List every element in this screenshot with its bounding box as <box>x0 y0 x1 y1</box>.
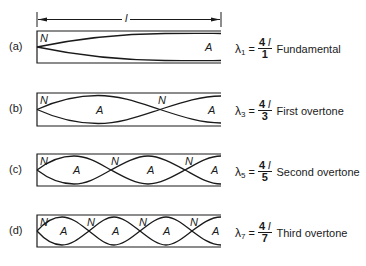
node-label: N <box>185 155 193 167</box>
row-tag-a: (a) <box>9 40 22 52</box>
fraction: 4 l3 <box>258 99 272 122</box>
formula-a: λ1= 4 l1 Fundamental <box>235 37 341 60</box>
formula-b: λ3= 4 l3 First overtone <box>235 99 344 122</box>
equals-sign: = <box>248 105 254 117</box>
numerator: 4 <box>259 159 265 171</box>
equals-sign: = <box>248 227 254 239</box>
row-tag-b: (b) <box>9 102 22 114</box>
antinode-label: A <box>163 225 170 237</box>
antinode-label: A <box>96 104 103 116</box>
numerator: 4 <box>259 98 265 110</box>
node-label: N <box>87 216 95 228</box>
node-label: N <box>40 216 48 228</box>
equals-sign: = <box>248 43 254 55</box>
node-label: N <box>139 216 147 228</box>
equals-sign: = <box>248 166 254 178</box>
antinode-label: A <box>112 225 119 237</box>
length-label: l <box>122 12 130 24</box>
mode-name: Fundamental <box>277 43 341 55</box>
antinode-label: A <box>60 225 67 237</box>
formula-d: λ7= 4 l7 Third overtone <box>235 221 347 244</box>
denominator: 7 <box>262 233 268 244</box>
mode-name: First overtone <box>277 105 344 117</box>
tube-b <box>37 93 221 126</box>
node-label: N <box>158 94 166 106</box>
mode-name: Second overtone <box>277 166 360 178</box>
formula-c: λ5= 4 l5 Second overtone <box>235 160 360 183</box>
numerator: 4 <box>259 36 265 48</box>
row-tag-d: (d) <box>9 224 22 236</box>
antinode-label: A <box>212 225 219 237</box>
tube-c <box>37 154 221 186</box>
node-label: N <box>40 155 48 167</box>
antinode-label: A <box>208 104 215 116</box>
mode-name: Third overtone <box>277 227 348 239</box>
node-label: N <box>111 155 119 167</box>
antinode-label: A <box>147 164 154 176</box>
node-label: N <box>40 32 48 44</box>
antinode-label: A <box>205 41 212 53</box>
fraction: 4 l7 <box>258 221 272 244</box>
denominator: 3 <box>262 111 268 122</box>
numerator: 4 <box>259 220 265 232</box>
denominator: 5 <box>262 172 268 183</box>
lambda-subscript: 5 <box>241 171 245 180</box>
antinode-label: A <box>73 164 80 176</box>
numerator-var: l <box>268 36 270 48</box>
antinode-label: A <box>211 164 218 176</box>
lambda-subscript: 3 <box>241 110 245 119</box>
numerator-var: l <box>268 159 270 171</box>
fraction: 4 l1 <box>258 37 272 60</box>
node-label: N <box>40 94 48 106</box>
numerator-var: l <box>268 220 270 232</box>
numerator-var: l <box>268 98 270 110</box>
denominator: 1 <box>262 49 268 60</box>
fraction: 4 l5 <box>258 160 272 183</box>
lambda-subscript: 1 <box>241 48 245 57</box>
tube-a <box>37 31 221 63</box>
node-label: N <box>190 216 198 228</box>
lambda-subscript: 7 <box>241 232 245 241</box>
row-tag-c: (c) <box>9 163 22 175</box>
